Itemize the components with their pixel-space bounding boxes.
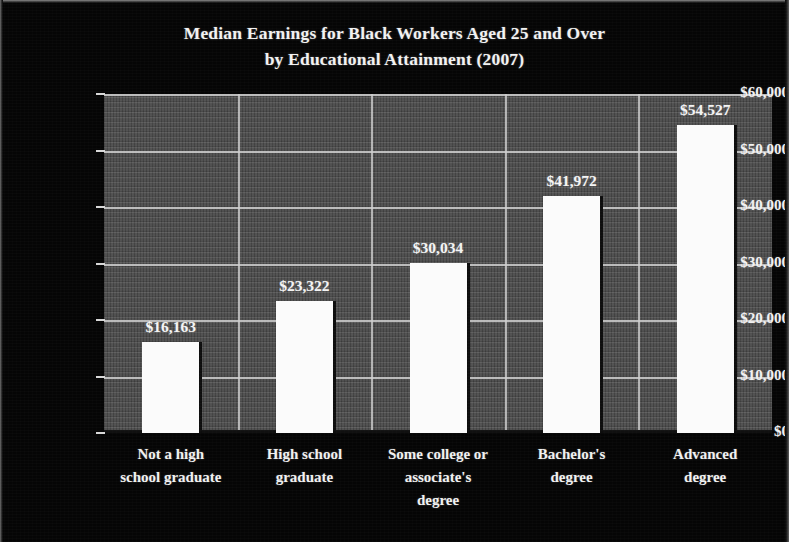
x-axis-category-label: Some college orassociate'sdegree: [371, 443, 505, 512]
bar-value-label: $30,034: [378, 239, 498, 257]
y-axis-tick-label: $30,000: [697, 254, 789, 271]
bar-value-label: $41,972: [512, 172, 632, 190]
x-axis-category-label: Bachelor'sdegree: [505, 443, 639, 489]
chart-figure: Median Earnings for Black Workers Aged 2…: [0, 0, 789, 542]
x-axis-category-label-line: Not a high: [104, 443, 238, 466]
bar-value-label: $23,322: [244, 277, 364, 295]
scan-edge-left: [0, 0, 3, 542]
chart-title-line-2: by Educational Attainment (2007): [0, 46, 789, 72]
x-axis-category-label-line: graduate: [238, 466, 372, 489]
y-axis-tick-mark: [96, 319, 105, 321]
bar-value-label: $54,527: [645, 101, 765, 119]
plot-area: [104, 94, 772, 433]
bar: [142, 342, 199, 433]
bar: [543, 196, 600, 433]
y-axis-tick-label: $60,000: [697, 84, 789, 101]
y-axis-tick-mark: [96, 376, 105, 378]
y-axis-tick-mark: [96, 93, 105, 95]
bar: [276, 301, 333, 433]
x-axis-category-label-line: degree: [371, 489, 505, 512]
y-axis-tick-mark: [96, 206, 105, 208]
y-axis-tick-label: $0: [697, 423, 789, 440]
gridline-horizontal: [104, 207, 772, 209]
y-axis-tick-mark: [96, 150, 105, 152]
gridline-horizontal: [104, 151, 772, 153]
x-axis-category-label-line: Bachelor's: [505, 443, 639, 466]
x-axis-category-label-line: degree: [505, 466, 639, 489]
y-axis-tick-label: $40,000: [697, 197, 789, 214]
y-axis-tick-label: $50,000: [697, 141, 789, 158]
x-axis-category-label-line: Advanced: [638, 443, 772, 466]
gridline-vertical: [638, 94, 640, 433]
bar: [677, 125, 734, 433]
x-axis-category-label: Advanceddegree: [638, 443, 772, 489]
chart-title: Median Earnings for Black Workers Aged 2…: [0, 20, 789, 72]
x-axis-category-label-line: High school: [238, 443, 372, 466]
x-axis-category-label-line: Some college or: [371, 443, 505, 466]
y-axis-tick-mark: [96, 263, 105, 265]
gridline-vertical: [371, 94, 373, 433]
x-axis-category-label: High schoolgraduate: [238, 443, 372, 489]
scan-edge-right: [785, 0, 789, 542]
gridline-vertical: [238, 94, 240, 433]
y-axis-tick-mark: [96, 432, 105, 434]
x-axis-category-label-line: degree: [638, 466, 772, 489]
chart-title-line-1: Median Earnings for Black Workers Aged 2…: [0, 20, 789, 46]
bar: [410, 263, 467, 433]
x-axis-category-label-line: associate's: [371, 466, 505, 489]
gridline-vertical: [505, 94, 507, 433]
y-axis-tick-label: $20,000: [697, 310, 789, 327]
y-axis-tick-label: $10,000: [697, 367, 789, 384]
x-axis-category-label: Not a highschool graduate: [104, 443, 238, 489]
x-axis-category-label-line: school graduate: [104, 466, 238, 489]
bar-value-label: $16,163: [111, 318, 231, 336]
scan-edge-top: [0, 0, 789, 3]
gridline-horizontal: [104, 94, 772, 96]
